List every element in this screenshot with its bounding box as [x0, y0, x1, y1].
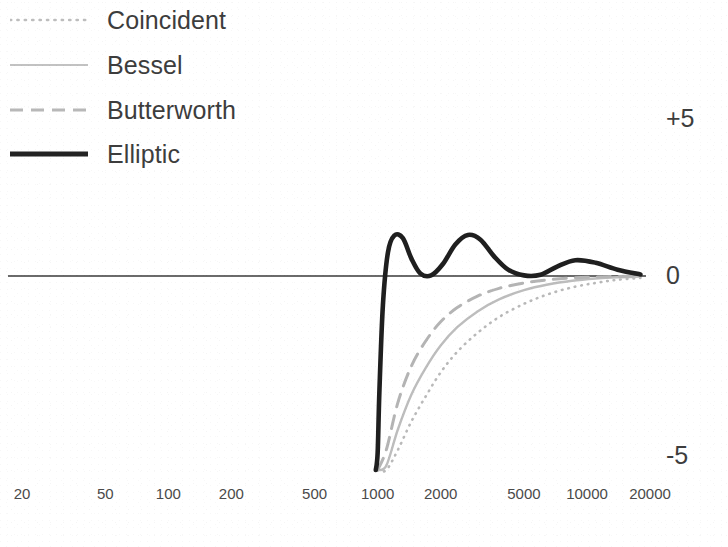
curve-elliptic — [376, 234, 641, 470]
curve-bessel — [378, 277, 641, 470]
x-tick-20000: 20000 — [610, 485, 690, 502]
curve-group — [376, 234, 641, 471]
frequency-response-chart: Coincident Bessel Butterworth — [0, 0, 728, 547]
curve-butterworth — [378, 276, 641, 470]
x-tick-2000: 2000 — [401, 485, 481, 502]
curve-coincident — [378, 278, 641, 472]
plot-area — [0, 0, 728, 547]
x-tick-200: 200 — [191, 485, 271, 502]
x-tick-20: 20 — [0, 485, 62, 502]
